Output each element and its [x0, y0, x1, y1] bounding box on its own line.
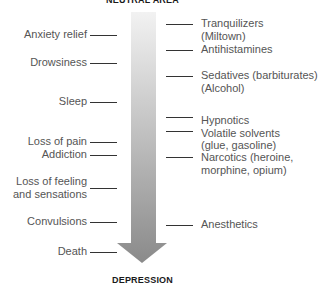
- drug-tick: [166, 50, 193, 51]
- drug-tick: [166, 157, 193, 158]
- drug-label-line2: (Miltown): [201, 30, 246, 43]
- drug-label: Hypnotics: [201, 114, 249, 127]
- drug-label: Narcotics (heroine,: [201, 151, 293, 164]
- effect-label: Loss of pain: [28, 135, 87, 148]
- effect-label: Anxiety relief: [24, 28, 87, 41]
- effect-label: Drowsiness: [30, 56, 87, 69]
- effect-tick: [90, 222, 117, 223]
- effect-tick: [90, 102, 117, 103]
- drug-label: Tranquilizers: [201, 17, 264, 30]
- effect-tick: [90, 155, 117, 156]
- drug-tick: [166, 76, 193, 77]
- effect-tick: [90, 63, 117, 64]
- depression-label: DEPRESSION: [0, 275, 285, 285]
- effect-label-line2: and sensations: [13, 188, 87, 201]
- drug-tick: [166, 131, 193, 132]
- drug-tick: [166, 117, 193, 118]
- drug-label: Volatile solvents: [201, 127, 280, 140]
- drug-tick: [166, 225, 193, 226]
- effect-label: Death: [58, 245, 87, 258]
- effect-tick: [90, 188, 117, 189]
- drug-label-line2: (glue, gasoline): [201, 139, 276, 152]
- effect-label: Loss of feeling: [16, 175, 87, 188]
- effect-label: Convulsions: [27, 215, 87, 228]
- drug-tick: [166, 24, 193, 25]
- effect-tick: [90, 252, 117, 253]
- effect-label: Addiction: [42, 148, 87, 161]
- drug-label-line2: (Alcohol): [201, 82, 244, 95]
- effect-tick: [90, 142, 117, 143]
- drug-label: Anesthetics: [201, 218, 258, 231]
- effect-label: Sleep: [59, 95, 87, 108]
- drug-label: Antihistamines: [201, 43, 273, 56]
- effect-tick: [90, 35, 117, 36]
- drug-label-line2: morphine, opium): [201, 164, 287, 177]
- drug-label: Sedatives (barbiturates): [201, 69, 318, 82]
